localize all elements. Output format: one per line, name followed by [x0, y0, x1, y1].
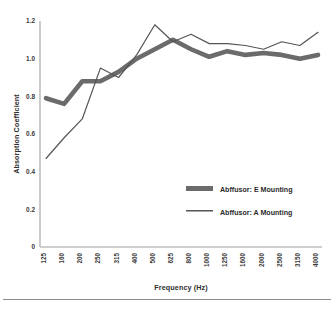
x-tick-label: 2000 — [258, 253, 265, 268]
x-tick-label: 200 — [76, 253, 83, 264]
x-tick-label: 2500 — [276, 253, 283, 268]
x-tick-label: 315 — [113, 253, 120, 264]
x-tick-label: 800 — [185, 253, 192, 264]
x-tick-label: 1250 — [221, 253, 228, 268]
bottom-divider — [3, 299, 331, 300]
y-tick-label: 1.2 — [26, 17, 35, 24]
y-axis-title: Absorption Coefficient — [12, 94, 21, 174]
y-tick-label: 0.2 — [26, 206, 35, 213]
legend-swatch-a-mounting — [186, 210, 213, 212]
legend-label-e-mounting: Abffusor: E Mounting — [220, 186, 293, 194]
y-tick-label: 0.4 — [26, 168, 35, 175]
y-tick-label: 0 — [31, 243, 35, 250]
x-tick-label: 4000 — [312, 253, 319, 268]
chart-figure: 00.20.40.60.81.01.2 12516020025031540050… — [0, 0, 334, 309]
x-tick-label: 500 — [149, 253, 156, 264]
x-tick-label: 1600 — [239, 253, 246, 268]
x-tick-label: 3150 — [294, 253, 301, 268]
y-tick-label: 0.8 — [26, 93, 35, 100]
legend-label-a-mounting: Abffusor: A Mounting — [220, 209, 292, 217]
y-tick-label: 1.0 — [26, 55, 35, 62]
x-tick-label: 625 — [167, 253, 174, 264]
x-axis-title: Frequency (Hz) — [154, 283, 208, 292]
x-tick-label: 1000 — [203, 253, 210, 268]
x-tick-label: 160 — [58, 253, 65, 264]
x-tick-label: 125 — [40, 253, 47, 264]
legend-swatch-e-mounting — [186, 186, 213, 191]
y-tick-label: 0.6 — [26, 130, 35, 137]
x-tick-label: 400 — [131, 253, 138, 264]
x-tick-label: 250 — [94, 253, 101, 264]
absorption-coefficient-line-chart: 00.20.40.60.81.01.2 12516020025031540050… — [0, 0, 334, 309]
